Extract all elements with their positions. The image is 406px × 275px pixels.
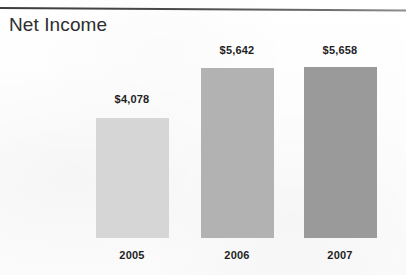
bar-category-label-2006: 2006 <box>197 249 277 261</box>
bar-group-2006: $5,642 2006 <box>197 0 277 275</box>
bar-category-label-2005: 2005 <box>92 249 172 261</box>
bar-2007[interactable] <box>304 67 377 238</box>
bar-group-2005: $4,078 2005 <box>92 0 172 275</box>
bar-value-label-2006: $5,642 <box>197 44 277 56</box>
bar-value-label-2005: $4,078 <box>92 93 172 105</box>
bar-2006[interactable] <box>201 68 274 238</box>
bar-2005[interactable] <box>96 118 169 238</box>
net-income-bar-chart: Net Income $4,078 2005 $5,642 2006 $5,65… <box>0 0 406 275</box>
bar-value-label-2007: $5,658 <box>300 44 380 56</box>
bar-category-label-2007: 2007 <box>300 249 380 261</box>
bar-group-2007: $5,658 2007 <box>300 0 380 275</box>
plot-area: $4,078 2005 $5,642 2006 $5,658 2007 <box>0 0 406 275</box>
